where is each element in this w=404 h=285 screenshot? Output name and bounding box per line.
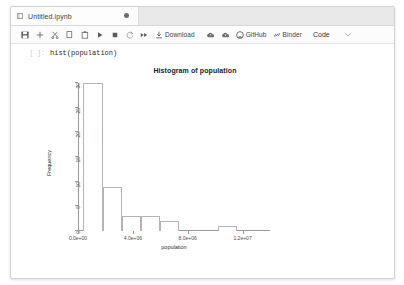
- tab-strip: Untitled.ipynb: [11, 7, 394, 26]
- download-label: Download: [165, 31, 195, 38]
- github-button[interactable]: GitHub: [233, 28, 270, 42]
- copy-icon: [66, 31, 74, 39]
- tab-title: Untitled.ipynb: [28, 13, 72, 20]
- copy-cell-button[interactable]: [62, 28, 77, 42]
- cell-prompt: [ ]:: [11, 49, 45, 57]
- x-axis-title: population: [78, 244, 270, 250]
- cell-type-label: Code: [313, 31, 330, 38]
- histogram-bar: [160, 221, 179, 231]
- restart-circle-icon: [126, 31, 134, 39]
- save-icon: [21, 31, 29, 39]
- x-tick: [78, 231, 79, 234]
- notebook-body: [ ]: hist(population) Histogram of popul…: [11, 44, 394, 277]
- screenshot-root: Untitled.ipynb: [0, 0, 404, 285]
- binder-button[interactable]: Binder: [270, 28, 305, 42]
- chart-title: Histogram of population: [45, 67, 345, 74]
- paste-icon: [81, 31, 89, 39]
- cloud-down-icon: [221, 31, 230, 39]
- restart-run-all-button[interactable]: [137, 28, 152, 42]
- link-icon: [273, 31, 281, 39]
- x-tick-label: 1.2e+07: [233, 235, 251, 241]
- figure-output: Histogram of population Frequency popula…: [45, 63, 345, 263]
- x-tick: [243, 231, 244, 234]
- chevron-down-icon[interactable]: [344, 32, 352, 38]
- save-cloud-button[interactable]: [218, 28, 233, 42]
- run-cell-button[interactable]: [92, 28, 107, 42]
- stop-square-icon: [111, 31, 119, 39]
- unsaved-indicator-dot[interactable]: [124, 13, 129, 18]
- scissors-icon: [51, 31, 59, 39]
- save-button[interactable]: [17, 28, 32, 42]
- fast-forward-icon: [140, 31, 149, 39]
- play-icon: [96, 31, 104, 39]
- code-cell[interactable]: [ ]: hist(population): [11, 44, 394, 57]
- histogram-bar: [141, 216, 160, 231]
- cell-source[interactable]: hist(population): [45, 49, 117, 57]
- download-icon: [155, 31, 163, 39]
- histogram-bar: [218, 226, 237, 231]
- histogram-bar: [122, 216, 141, 231]
- x-tick: [188, 231, 189, 234]
- x-tick-label: 4.0e+06: [124, 235, 142, 241]
- y-axis-title: Frequency: [46, 150, 52, 176]
- tab-untitled-notebook[interactable]: Untitled.ipynb: [11, 7, 139, 25]
- github-icon: [236, 31, 244, 39]
- notebook-icon: [17, 13, 23, 19]
- cut-cell-button[interactable]: [47, 28, 62, 42]
- plot-area: population 0510152025300.0e+004.0e+068.0…: [78, 83, 270, 231]
- download-button[interactable]: Download: [152, 28, 198, 42]
- notebook-toolbar: Download GitHub: [11, 26, 394, 44]
- x-tick-label: 0.0e+00: [69, 235, 87, 241]
- histogram-bar: [83, 83, 102, 231]
- cloud-up-icon: [206, 31, 215, 39]
- github-label: GitHub: [246, 31, 267, 38]
- x-tick-label: 8.0e+06: [179, 235, 197, 241]
- plus-icon: [36, 31, 44, 39]
- cell-type-select[interactable]: Code: [311, 31, 332, 38]
- notebook-window: Untitled.ipynb: [10, 6, 395, 279]
- histogram-bar: [103, 187, 122, 231]
- stop-kernel-button[interactable]: [107, 28, 122, 42]
- insert-cell-button[interactable]: [32, 28, 47, 42]
- upload-cloud-button[interactable]: [203, 28, 218, 42]
- paste-cell-button[interactable]: [77, 28, 92, 42]
- binder-label: Binder: [283, 31, 302, 38]
- restart-kernel-button[interactable]: [122, 28, 137, 42]
- x-tick: [133, 231, 134, 234]
